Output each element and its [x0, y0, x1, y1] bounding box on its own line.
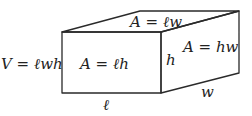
prism-figure: A = ℓw A = hw V = ℓwh A = ℓh h ℓ w: [0, 0, 252, 116]
length-label: ℓ: [103, 96, 109, 114]
volume-label: V = ℓwh: [1, 55, 63, 73]
side-area-label: A = hw: [181, 38, 239, 56]
front-area-label: A = ℓh: [78, 55, 129, 73]
height-label: h: [166, 51, 176, 69]
rectangular-prism-diagram: A = ℓw A = hw V = ℓwh A = ℓh h ℓ w: [0, 0, 252, 116]
top-area-label: A = ℓw: [128, 13, 182, 31]
width-label: w: [201, 83, 214, 101]
